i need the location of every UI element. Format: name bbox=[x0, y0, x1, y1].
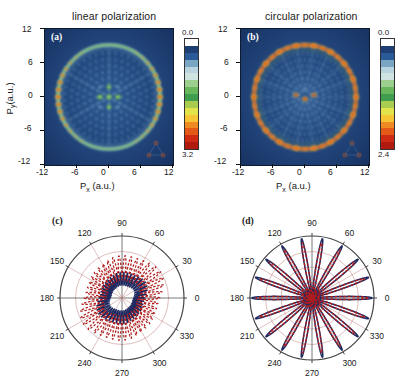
colorbar-band bbox=[381, 87, 394, 94]
polar-angle-label-180: 180 bbox=[230, 293, 244, 303]
colorbar-band bbox=[185, 135, 198, 142]
polar-angle-label-210: 210 bbox=[50, 331, 64, 341]
polar-angle-label-330: 330 bbox=[180, 331, 194, 341]
panel-a-xtick-1: -6 bbox=[71, 167, 79, 177]
colorbar-band bbox=[381, 122, 394, 129]
polar-angle-label-90: 90 bbox=[117, 218, 126, 228]
panel-b-colorbar-min: 0.0 bbox=[378, 28, 389, 37]
panel-a-colorbar bbox=[184, 38, 199, 150]
colorbar-band bbox=[381, 46, 394, 53]
panel-a-ytick-4: -12 bbox=[18, 156, 30, 166]
panel-a-ytick-3: -6 bbox=[24, 123, 32, 133]
colorbar-band bbox=[185, 67, 198, 74]
panel-a-xtick-2: 0 bbox=[101, 167, 106, 177]
panel-b-ytick-2: 0 bbox=[224, 90, 229, 100]
panel-b-canvas bbox=[241, 29, 369, 165]
colorbar-band bbox=[185, 108, 198, 115]
colorbar-band bbox=[381, 108, 394, 115]
map-xtick-0-0 bbox=[44, 164, 45, 168]
polar-angle-label-330: 330 bbox=[370, 331, 384, 341]
polar-angle-label-120: 120 bbox=[267, 228, 281, 238]
colorbar-band bbox=[381, 39, 394, 46]
map-xtick-1-3 bbox=[336, 164, 337, 168]
colorbar-band bbox=[185, 60, 198, 67]
panel-a-x-axis-label: Px (a.u.) bbox=[80, 180, 115, 193]
colorbar-band bbox=[185, 142, 198, 149]
colorbar-band bbox=[381, 53, 394, 60]
panel-a-ytick-2: 0 bbox=[28, 90, 33, 100]
map-ytick-1-0 bbox=[236, 28, 240, 29]
panel-a-y-axis-label: Py(a.u.) bbox=[4, 82, 17, 114]
polar-angle-label-150: 150 bbox=[50, 256, 64, 266]
map-ytick-0-3 bbox=[40, 130, 44, 131]
colorbar-band bbox=[185, 122, 198, 129]
colorbar-band bbox=[185, 101, 198, 108]
polar-angle-label-270: 270 bbox=[115, 368, 129, 378]
map-xtick-0-4 bbox=[172, 164, 173, 168]
colorbar-band bbox=[381, 135, 394, 142]
panel-c-canvas bbox=[42, 214, 202, 380]
polar-angle-label-30: 30 bbox=[182, 256, 191, 266]
polar-angle-label-240: 240 bbox=[77, 358, 91, 368]
colorbar-band bbox=[185, 94, 198, 101]
map-ytick-0-2 bbox=[40, 96, 44, 97]
polar-angle-label-90: 90 bbox=[307, 218, 316, 228]
polar-angle-label-300: 300 bbox=[342, 358, 356, 368]
panel-a-colorbar-min: 0.0 bbox=[182, 28, 193, 37]
colorbar-band bbox=[381, 101, 394, 108]
colorbar-band bbox=[381, 67, 394, 74]
panel-b-x-axis-label: Px (a.u.) bbox=[276, 180, 311, 193]
map-ytick-0-0 bbox=[40, 28, 44, 29]
colorbar-band bbox=[381, 60, 394, 67]
polar-angle-label-150: 150 bbox=[240, 256, 254, 266]
polar-angle-label-270: 270 bbox=[305, 368, 319, 378]
panel-b-colorbar-max: 2.4 bbox=[378, 150, 389, 159]
panel-a-xtick-4: 12 bbox=[164, 167, 173, 177]
polar-angle-label-60: 60 bbox=[345, 228, 354, 238]
polar-angle-label-120: 120 bbox=[77, 228, 91, 238]
map-xtick-0-1 bbox=[76, 164, 77, 168]
colorbar-band bbox=[185, 128, 198, 135]
panel-b-momentum-map bbox=[240, 28, 370, 166]
map-ytick-1-1 bbox=[236, 62, 240, 63]
colorbar-band bbox=[381, 128, 394, 135]
colorbar-band bbox=[381, 115, 394, 122]
polar-angle-label-240: 240 bbox=[267, 358, 281, 368]
panel-a-title: linear polarization bbox=[72, 10, 156, 22]
map-xtick-0-3 bbox=[140, 164, 141, 168]
panel-b-xtick-0: -12 bbox=[232, 167, 244, 177]
panel-a-xtick-0: -12 bbox=[36, 167, 48, 177]
map-xtick-1-4 bbox=[368, 164, 369, 168]
figure-root: linear polarization bbox=[0, 0, 407, 387]
map-xtick-0-2 bbox=[108, 164, 109, 168]
colorbar-band bbox=[185, 39, 198, 46]
panel-b-ytick-4: -12 bbox=[214, 156, 226, 166]
polar-angle-label-300: 300 bbox=[152, 358, 166, 368]
panel-d-polar-plot bbox=[232, 214, 392, 380]
polar-angle-label-60: 60 bbox=[155, 228, 164, 238]
colorbar-band bbox=[185, 46, 198, 53]
polar-angle-label-30: 30 bbox=[372, 256, 381, 266]
colorbar-band bbox=[381, 73, 394, 80]
colorbar-band bbox=[185, 87, 198, 94]
panel-b-xtick-4: 12 bbox=[360, 167, 369, 177]
panel-b-xtick-1: -6 bbox=[267, 167, 275, 177]
map-xtick-1-0 bbox=[240, 164, 241, 168]
map-ytick-1-2 bbox=[236, 96, 240, 97]
panel-b-xtick-2: 0 bbox=[297, 167, 302, 177]
polar-angle-label-0: 0 bbox=[195, 293, 200, 303]
panel-b-xtick-3: 6 bbox=[328, 167, 333, 177]
panel-d-canvas bbox=[232, 214, 392, 380]
panel-b-ytick-1: 6 bbox=[224, 57, 229, 67]
map-xtick-1-2 bbox=[304, 164, 305, 168]
polar-angle-label-180: 180 bbox=[40, 293, 54, 303]
panel-a-xtick-3: 6 bbox=[132, 167, 137, 177]
panel-b-ytick-3: -6 bbox=[220, 123, 228, 133]
panel-b-tag: (b) bbox=[247, 32, 259, 42]
map-ytick-0-1 bbox=[40, 62, 44, 63]
panel-b-colorbar bbox=[380, 38, 395, 150]
colorbar-band bbox=[185, 80, 198, 87]
map-xtick-1-1 bbox=[272, 164, 273, 168]
panel-b-title: circular polarization bbox=[265, 10, 358, 22]
colorbar-band bbox=[381, 142, 394, 149]
